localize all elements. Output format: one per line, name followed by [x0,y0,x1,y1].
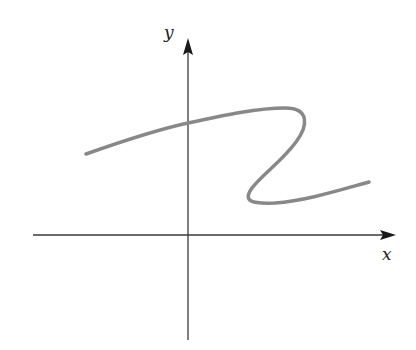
s-curve [86,108,369,203]
graph-canvas [0,0,416,350]
y-axis-label: y [164,22,174,42]
x-axis-label: x [382,244,392,264]
graph-figure: y x [0,0,416,350]
